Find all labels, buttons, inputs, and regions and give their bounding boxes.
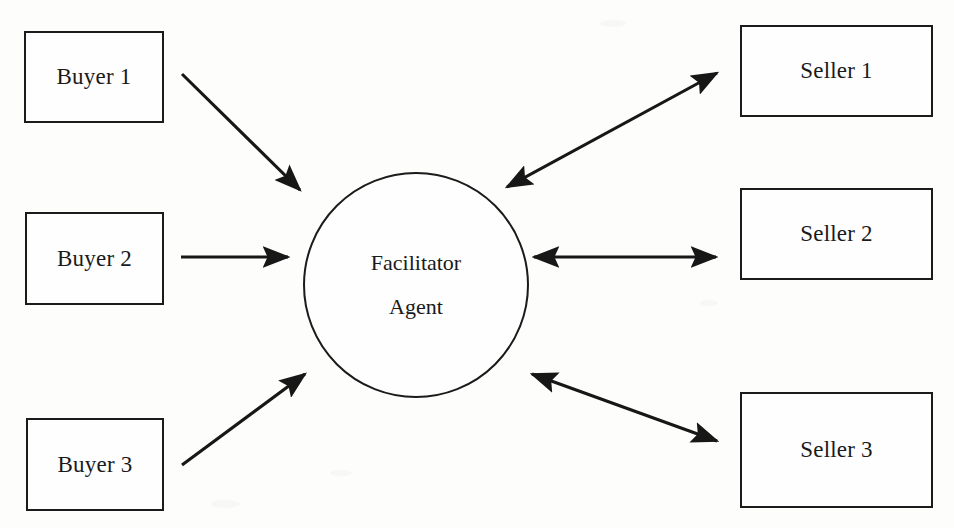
node-buyer-1-label: Buyer 1 (57, 64, 132, 90)
node-buyer-3[interactable]: Buyer 3 (26, 418, 164, 511)
node-seller-1[interactable]: Seller 1 (740, 25, 933, 117)
facilitator-agent-line-1: Facilitator (371, 241, 461, 285)
node-facilitator-agent[interactable]: Facilitator Agent (303, 172, 529, 398)
edge-buyer-1-to-agent (182, 74, 300, 190)
diagram-canvas: Buyer 1 Buyer 2 Buyer 3 Facilitator Agen… (0, 0, 954, 528)
edge-buyer-3-to-agent (182, 374, 305, 465)
edge-agent-to-seller-3 (532, 374, 717, 441)
node-seller-2[interactable]: Seller 2 (740, 188, 933, 280)
node-seller-2-label: Seller 2 (800, 221, 873, 247)
node-seller-3-label: Seller 3 (800, 437, 873, 463)
node-seller-3[interactable]: Seller 3 (740, 392, 933, 508)
edge-agent-to-seller-1 (507, 73, 717, 187)
facilitator-agent-line-2: Agent (389, 285, 443, 329)
node-buyer-2-label: Buyer 2 (57, 246, 132, 272)
node-seller-1-label: Seller 1 (800, 58, 873, 84)
node-buyer-3-label: Buyer 3 (58, 452, 133, 478)
node-buyer-1[interactable]: Buyer 1 (24, 31, 164, 123)
node-buyer-2[interactable]: Buyer 2 (25, 212, 164, 305)
